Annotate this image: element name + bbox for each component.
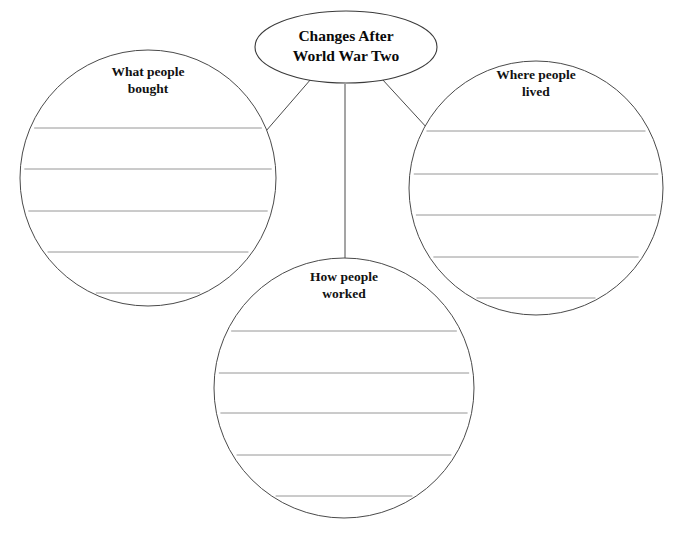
center-topic[interactable]: Changes After World War Two bbox=[255, 11, 437, 83]
bubble-label-what-people-bought-line2: bought bbox=[128, 81, 169, 96]
center-topic-label-line2: World War Two bbox=[293, 47, 400, 64]
connector-group bbox=[266, 79, 428, 259]
bubble-outline-where-people-lived[interactable] bbox=[409, 61, 663, 315]
bubble-what-people-bought[interactable]: What people bought bbox=[20, 50, 276, 306]
bubble-where-people-lived[interactable]: Where people lived bbox=[409, 61, 663, 315]
bubble-label-what-people-bought-line1: What people bbox=[111, 64, 184, 79]
bubble-label-how-people-worked-line2: worked bbox=[322, 286, 366, 301]
graphic-organizer-page: What people bought Where people lived Ho… bbox=[0, 0, 675, 536]
bubble-how-people-worked[interactable]: How people worked bbox=[214, 258, 474, 518]
connector-to-where-people-lived bbox=[382, 79, 428, 129]
connector-to-what-people-bought bbox=[266, 79, 311, 131]
bubble-label-where-people-lived-line1: Where people bbox=[496, 67, 576, 82]
bubble-label-how-people-worked-line1: How people bbox=[310, 269, 378, 284]
organizer-canvas: What people bought Where people lived Ho… bbox=[0, 0, 675, 536]
bubble-label-where-people-lived-line2: lived bbox=[522, 84, 550, 99]
center-topic-label-line1: Changes After bbox=[298, 27, 393, 44]
